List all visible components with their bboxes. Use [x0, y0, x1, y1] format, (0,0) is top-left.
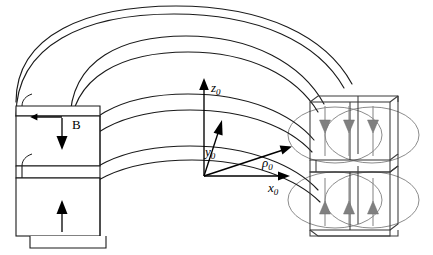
x-axis-label-group: x0: [267, 180, 279, 197]
z-axis-arrowhead: [199, 78, 209, 90]
x-axis-subscript: 0: [274, 187, 279, 197]
rho-vector-subscript: 0: [268, 162, 273, 172]
x-axis-arrowhead: [278, 171, 290, 180]
rho-vector-label-group: ρ0: [261, 155, 273, 172]
rho-vector-symbol: ρ: [261, 155, 268, 170]
z-axis-label-group: z0: [210, 80, 221, 97]
left-end-face: [16, 106, 106, 248]
y-axis-subscript: 0: [211, 151, 216, 161]
magnet-diagram-figure: B: [0, 0, 433, 255]
y-axis-arrowhead: [214, 120, 223, 136]
right-end-blocks: [310, 96, 398, 236]
b-field-label: B: [72, 117, 81, 132]
axis-labels: z0 y0 x0 ρ0: [203, 80, 279, 197]
z-axis-subscript: 0: [216, 87, 221, 97]
rho-vector-arrowhead: [280, 145, 292, 154]
diagram-canvas: B: [0, 0, 433, 255]
